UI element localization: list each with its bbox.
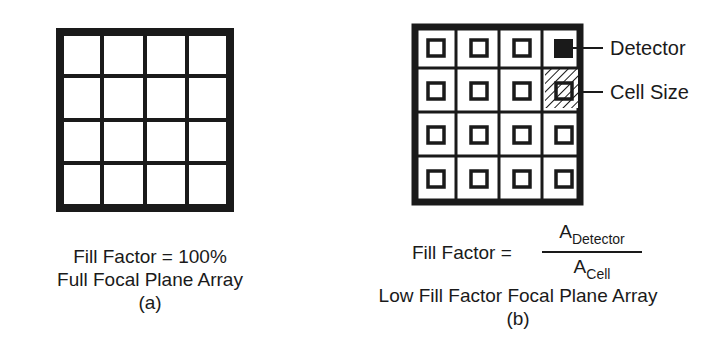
formula-denominator: ACell bbox=[542, 257, 642, 278]
fraction-bar bbox=[542, 251, 642, 253]
formula-lhs: Fill Factor = bbox=[412, 242, 512, 264]
detector-filled bbox=[554, 39, 573, 58]
panel-b-label: (b) bbox=[338, 307, 698, 330]
cell-size-label: Cell Size bbox=[610, 81, 689, 103]
panel-a-title: Full Focal Plane Array bbox=[55, 268, 245, 291]
panel-b-title: Low Fill Factor Focal Plane Array bbox=[338, 284, 698, 307]
full-array-grid bbox=[60, 32, 230, 208]
low-fill-array-grid bbox=[415, 27, 603, 202]
formula-fraction: ADetector ACell bbox=[542, 222, 642, 278]
detector-label: Detector bbox=[610, 37, 686, 59]
fill-factor-100: Fill Factor = 100% bbox=[55, 245, 245, 268]
panel-b-caption: Low Fill Factor Focal Plane Array (b) bbox=[338, 284, 698, 330]
panel-a-label: (a) bbox=[55, 291, 245, 314]
fill-factor-formula: Fill Factor = ADetector ACell bbox=[412, 222, 652, 282]
panel-a-caption: Fill Factor = 100% Full Focal Plane Arra… bbox=[55, 245, 245, 314]
formula-numerator: ADetector bbox=[542, 222, 642, 243]
